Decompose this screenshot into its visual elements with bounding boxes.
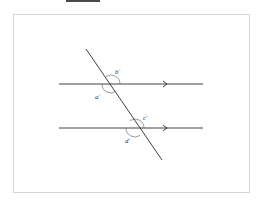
angle-arc-d — [126, 128, 140, 137]
angle-label-b: b° — [115, 68, 121, 76]
angle-arc-b — [106, 75, 120, 84]
angle-label-a: a° — [95, 93, 101, 101]
angle-label-c: c° — [143, 114, 148, 122]
transversal-line — [86, 49, 162, 160]
angle-label-d: d° — [125, 137, 131, 145]
parallel-lines-diagram: b° a° c° d° — [0, 0, 263, 205]
angle-arc-a — [102, 84, 116, 93]
